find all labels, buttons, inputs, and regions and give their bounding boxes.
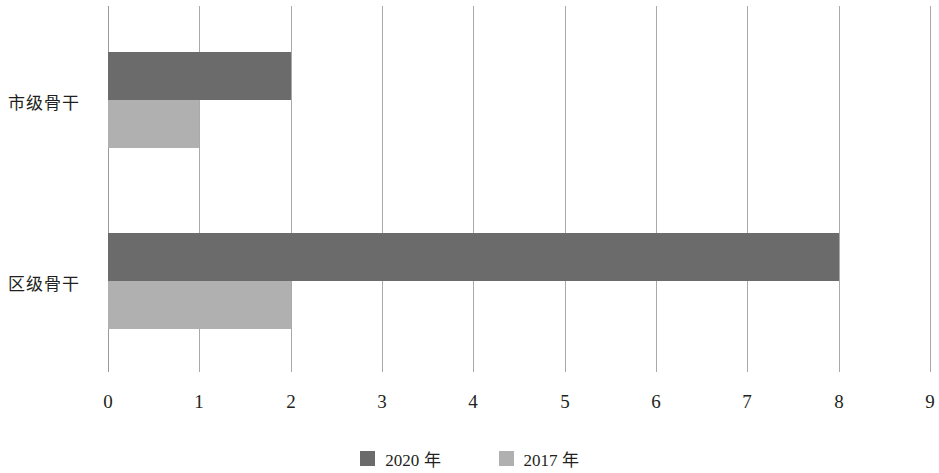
gridline-6 [656, 6, 657, 372]
x-tick-label-2: 2 [271, 391, 311, 413]
legend-swatch-icon-2020 [360, 451, 375, 466]
category-label-1: 区级骨干 [8, 270, 100, 295]
x-tick-label-0: 0 [88, 391, 128, 413]
legend-label-2020: 2020 年 [385, 446, 440, 471]
gridline-3 [382, 6, 383, 372]
legend-swatch-icon-2017 [499, 451, 514, 466]
gridline-9 [930, 6, 931, 372]
x-tick-label-3: 3 [362, 391, 402, 413]
x-tick-label-9: 9 [910, 391, 939, 413]
x-tick-label-8: 8 [819, 391, 859, 413]
legend-label-2017: 2017 年 [524, 446, 579, 471]
gridline-4 [473, 6, 474, 372]
x-tick-label-5: 5 [545, 391, 585, 413]
legend-item-2020: 2020 年 [360, 446, 440, 471]
x-tick-label-7: 7 [727, 391, 767, 413]
bar-chart: 市级骨干 区级骨干 0 1 2 3 4 5 6 7 8 9 2020 年 201… [0, 0, 939, 473]
category-label-0: 市级骨干 [8, 89, 100, 114]
bar-shijiguganbu-2020 [108, 52, 291, 100]
x-tick-label-1: 1 [179, 391, 219, 413]
gridline-2 [291, 6, 292, 372]
chart-legend: 2020 年 2017 年 [0, 446, 939, 471]
bar-qujiguganbu-2017 [108, 281, 291, 329]
x-tick-label-6: 6 [636, 391, 676, 413]
legend-item-2017: 2017 年 [499, 446, 579, 471]
gridline-7 [747, 6, 748, 372]
gridline-8 [839, 6, 840, 372]
bar-shijiguganbu-2017 [108, 100, 199, 148]
bar-qujiguganbu-2020 [108, 233, 839, 281]
plot-area [108, 6, 930, 372]
gridline-5 [565, 6, 566, 372]
x-tick-label-4: 4 [453, 391, 493, 413]
